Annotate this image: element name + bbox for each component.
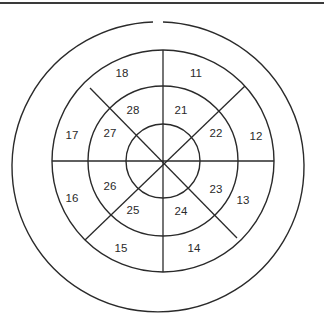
segment-label-22: 22 (210, 127, 223, 139)
segment-label-25: 25 (127, 204, 140, 216)
segment-label-13: 13 (237, 194, 250, 206)
segment-label-12: 12 (250, 130, 263, 142)
segment-label-26: 26 (104, 180, 117, 192)
segment-label-24: 24 (175, 205, 188, 217)
segment-label-11: 11 (190, 67, 202, 79)
segment-label-15: 15 (115, 242, 128, 254)
segment-label-18: 18 (116, 67, 129, 79)
segment-label-23: 23 (210, 183, 223, 195)
ring-diagram: 11 12 13 14 15 16 17 18 21 22 23 24 25 2… (0, 0, 324, 331)
segment-label-14: 14 (188, 242, 201, 254)
segment-label-27: 27 (104, 127, 117, 139)
segment-label-17: 17 (66, 129, 79, 141)
outer-boundary-arc (12, 22, 304, 312)
segment-label-16: 16 (66, 192, 79, 204)
segment-label-28: 28 (127, 104, 140, 116)
segment-label-21: 21 (175, 104, 188, 116)
